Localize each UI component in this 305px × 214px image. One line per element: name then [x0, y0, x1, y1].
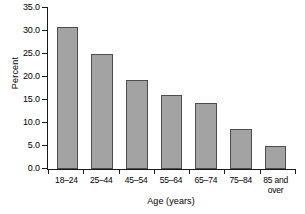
bar-slot	[50, 8, 85, 169]
bar-series	[48, 8, 295, 169]
bar	[126, 80, 148, 169]
x-tick	[295, 169, 296, 174]
x-axis-tick-labels: 18–2425–4445–5455–6465–7475–8485 andover	[47, 175, 295, 195]
bar-slot	[224, 8, 259, 169]
x-tick-label-line: 85 and	[263, 175, 288, 185]
bar	[91, 54, 113, 169]
y-tick-label: 15.0	[23, 94, 40, 104]
x-tick-label-line: 75–84	[229, 175, 252, 185]
y-tick-label: 35.0	[23, 2, 40, 12]
y-tick-label: 30.0	[23, 25, 40, 35]
x-tick-label-line: 65–74	[195, 175, 218, 185]
x-tick-label: 75–84	[223, 175, 258, 195]
x-tick	[224, 169, 225, 174]
x-tick-label: 85 andover	[258, 175, 293, 195]
bar-slot	[85, 8, 120, 169]
y-tick-label: 25.0	[23, 48, 40, 58]
bar-slot	[154, 8, 189, 169]
x-axis-ticks	[48, 169, 295, 174]
bar	[230, 129, 252, 169]
x-tick-label-line: 55–64	[160, 175, 183, 185]
bar	[161, 95, 183, 169]
y-tick-label: 10.0	[23, 117, 40, 127]
plot-area: 0.05.010.015.020.025.030.035.0	[47, 8, 295, 170]
x-tick-label: 25–44	[84, 175, 119, 195]
bar-chart: Percent 0.05.010.015.020.025.030.035.0 1…	[0, 0, 305, 214]
x-tick	[119, 169, 120, 174]
bar	[265, 146, 287, 169]
bar-slot	[258, 8, 293, 169]
y-tick-label: 0.0	[28, 163, 40, 173]
y-tick-label: 5.0	[28, 140, 40, 150]
x-tick	[48, 169, 49, 174]
x-tick	[260, 169, 261, 174]
x-tick	[154, 169, 155, 174]
x-tick-label-line: 45–54	[125, 175, 148, 185]
x-tick-label: 45–54	[119, 175, 154, 195]
x-axis-title: Age (years)	[47, 196, 295, 206]
x-tick-label: 55–64	[154, 175, 189, 195]
x-tick-label: 65–74	[188, 175, 223, 195]
x-tick-label: 18–24	[49, 175, 84, 195]
bar	[57, 27, 79, 169]
bar-slot	[189, 8, 224, 169]
x-tick	[83, 169, 84, 174]
x-tick-label-line: 25–44	[90, 175, 113, 185]
x-tick-label-line: 18–24	[55, 175, 78, 185]
bar	[195, 103, 217, 169]
bar-slot	[119, 8, 154, 169]
y-tick-label: 20.0	[23, 71, 40, 81]
y-axis-title: Percent	[10, 33, 20, 113]
x-tick-label-line: over	[258, 185, 293, 195]
x-tick	[189, 169, 190, 174]
